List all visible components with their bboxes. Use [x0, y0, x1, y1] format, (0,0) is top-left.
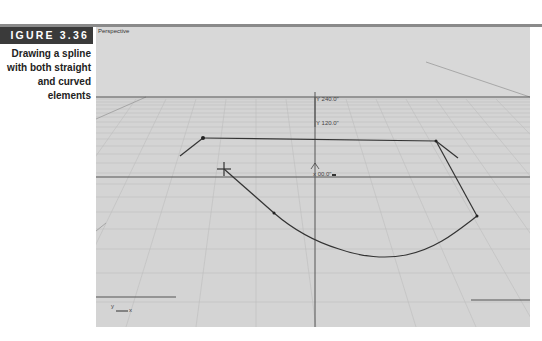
figure-tag: IGURE 3.36: [0, 27, 93, 44]
viewport-grid: Y 240.0" Y 120.0" x 00.0": [96, 27, 530, 327]
coord-y240: Y 240.0": [316, 96, 339, 102]
svg-text:y: y: [111, 303, 114, 309]
figure-caption: Drawing a spline with both straight and …: [0, 47, 91, 103]
coord-x0: x 00.0": [313, 171, 331, 177]
viewport-label[interactable]: Perspective: [98, 28, 129, 34]
axis-indicator-icon: y x: [111, 303, 132, 313]
perspective-viewport[interactable]: Y 240.0" Y 120.0" x 00.0": [96, 27, 530, 327]
svg-text:x: x: [129, 307, 132, 313]
coord-y120: Y 120.0": [316, 120, 339, 126]
spline-path[interactable]: [180, 138, 477, 257]
